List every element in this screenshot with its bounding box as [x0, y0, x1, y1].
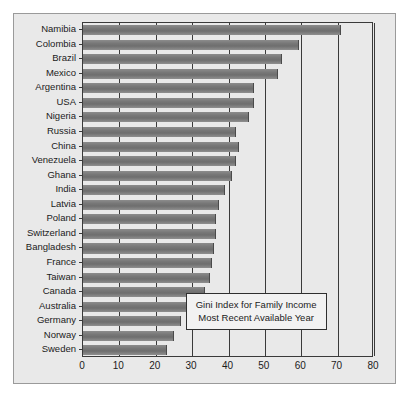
y-label-norway: Norway: [14, 328, 80, 343]
bar-namibia: [83, 25, 341, 35]
x-tick-label-20: 20: [149, 360, 160, 371]
bar-row: [83, 241, 372, 256]
y-label-china: China: [14, 139, 80, 154]
bar-row: [83, 67, 372, 82]
bar-row: [83, 96, 372, 111]
bar-norway: [83, 331, 174, 341]
bar-taiwan: [83, 273, 210, 283]
y-label-colombia: Colombia: [14, 37, 80, 52]
bar-row: [83, 212, 372, 227]
bar-brazil: [83, 54, 282, 64]
bar-row: [83, 125, 372, 140]
chart-annotation-box: Gini Index for Family Income Most Recent…: [186, 293, 327, 330]
bar-row: [83, 198, 372, 213]
bar-row: [83, 343, 372, 358]
y-label-argentina: Argentina: [14, 80, 80, 95]
bar-australia: [83, 302, 194, 312]
x-tick-label-30: 30: [186, 360, 197, 371]
bar-sweden: [83, 345, 167, 355]
y-label-switzerland: Switzerland: [14, 226, 80, 241]
bar-row: [83, 81, 372, 96]
bar-germany: [83, 316, 181, 326]
y-label-india: India: [14, 182, 80, 197]
bar-argentina: [83, 83, 254, 93]
bar-row: [83, 38, 372, 53]
bar-row: [83, 140, 372, 155]
y-label-france: France: [14, 255, 80, 270]
x-tick-label-60: 60: [295, 360, 306, 371]
bar-usa: [83, 98, 254, 108]
y-label-canada: Canada: [14, 284, 80, 299]
bar-poland: [83, 214, 216, 224]
x-tick-label-70: 70: [331, 360, 342, 371]
bar-row: [83, 169, 372, 184]
y-label-russia: Russia: [14, 124, 80, 139]
y-label-ghana: Ghana: [14, 168, 80, 183]
y-label-usa: USA: [14, 95, 80, 110]
annotation-line-1: Gini Index for Family Income: [196, 298, 317, 311]
y-label-taiwan: Taiwan: [14, 270, 80, 285]
x-tick-label-0: 0: [79, 360, 85, 371]
y-label-germany: Germany: [14, 313, 80, 328]
bar-nigeria: [83, 112, 249, 122]
annotation-line-2: Most Recent Available Year: [196, 311, 317, 324]
y-label-australia: Australia: [14, 299, 80, 314]
bar-row: [83, 256, 372, 271]
chart-frame: NamibiaColombiaBrazilMexicoArgentinaUSAN…: [13, 13, 396, 384]
y-label-sweden: Sweden: [14, 342, 80, 357]
y-label-latvia: Latvia: [14, 197, 80, 212]
bar-row: [83, 271, 372, 286]
bar-row: [83, 154, 372, 169]
y-label-nigeria: Nigeria: [14, 109, 80, 124]
bar-mexico: [83, 69, 278, 79]
y-label-venezuela: Venezuela: [14, 153, 80, 168]
gridline-80: [374, 23, 375, 356]
bar-colombia: [83, 40, 299, 50]
x-tick-label-10: 10: [113, 360, 124, 371]
x-tick-label-40: 40: [222, 360, 233, 371]
bar-ghana: [83, 171, 232, 181]
bar-row: [83, 52, 372, 67]
bar-china: [83, 142, 239, 152]
bar-bangladesh: [83, 243, 214, 253]
x-tick-label-80: 80: [367, 360, 378, 371]
bar-row: [83, 329, 372, 344]
bar-russia: [83, 127, 236, 137]
y-label-brazil: Brazil: [14, 51, 80, 66]
bar-row: [83, 183, 372, 198]
bar-france: [83, 258, 212, 268]
bar-switzerland: [83, 229, 216, 239]
bar-row: [83, 227, 372, 242]
x-tick-label-50: 50: [258, 360, 269, 371]
y-axis-category-labels: NamibiaColombiaBrazilMexicoArgentinaUSAN…: [14, 22, 80, 357]
bar-india: [83, 185, 225, 195]
bar-row: [83, 110, 372, 125]
bar-row: [83, 23, 372, 38]
bar-venezuela: [83, 156, 236, 166]
y-label-bangladesh: Bangladesh: [14, 240, 80, 255]
bar-latvia: [83, 200, 219, 210]
y-label-poland: Poland: [14, 211, 80, 226]
y-label-namibia: Namibia: [14, 22, 80, 37]
y-label-mexico: Mexico: [14, 66, 80, 81]
x-axis-tick-labels: 01020304050607080: [82, 360, 373, 376]
